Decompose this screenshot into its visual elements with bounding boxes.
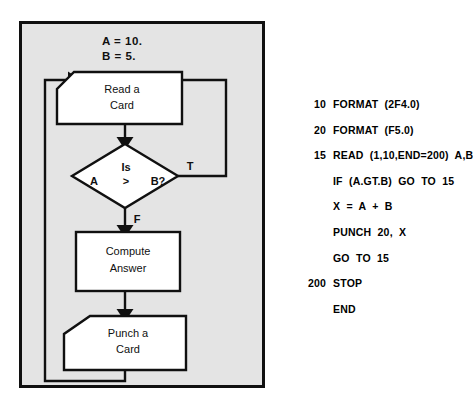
code-line-statement: FORMAT (F5.0) — [326, 124, 414, 136]
init-line-a: A = 10. — [102, 35, 142, 47]
node-read-a-card-line2: Card — [110, 99, 134, 111]
node-compute-answer-line2: Answer — [110, 262, 147, 274]
code-line: END — [300, 303, 464, 329]
node-decision-left-operand: A — [90, 175, 98, 187]
branch-label-true: T — [187, 160, 194, 172]
code-line-label: 20 — [300, 124, 326, 136]
code-line-statement: PUNCH 20, X — [326, 226, 406, 238]
code-line: IF (A.GT.B) GO TO 15 — [300, 175, 464, 201]
code-line: X = A + B — [300, 200, 464, 226]
code-line-statement: GO TO 15 — [326, 252, 389, 264]
code-line-statement: READ (1,10,END=200) A,B — [326, 149, 473, 161]
code-line-label: 10 — [300, 98, 326, 110]
node-decision-right-operand: B? — [151, 175, 166, 187]
node-compute-answer-line1: Compute — [106, 245, 151, 257]
code-line-statement: END — [326, 303, 356, 315]
fortran-code-listing: 10 FORMAT (2F4.0) 20 FORMAT (F5.0) 15 RE… — [300, 98, 464, 328]
code-line-statement: STOP — [326, 277, 362, 289]
code-line: 15 READ (1,10,END=200) A,B — [300, 149, 464, 175]
code-line: 200 STOP — [300, 277, 464, 303]
node-read-a-card-line1: Read a — [104, 83, 140, 95]
flowchart-diagram: A = 10. B = 5. Read a Card Is A > B? T F… — [22, 24, 262, 385]
node-decision-operator: > — [123, 175, 129, 187]
code-line: GO TO 15 — [300, 252, 464, 278]
node-decision-top: Is — [121, 161, 130, 173]
code-line: PUNCH 20, X — [300, 226, 464, 252]
flowchart-panel: A = 10. B = 5. Read a Card Is A > B? T F… — [19, 21, 265, 388]
node-punch-a-card-line2: Card — [116, 343, 140, 355]
code-line-statement: IF (A.GT.B) GO TO 15 — [326, 175, 454, 187]
init-line-b: B = 5. — [102, 50, 136, 62]
node-punch-a-card-line1: Punch a — [108, 327, 149, 339]
code-line-statement: FORMAT (2F4.0) — [326, 98, 420, 110]
code-line-label: 200 — [300, 277, 326, 289]
code-line: 10 FORMAT (2F4.0) — [300, 98, 464, 124]
code-line-label: 15 — [300, 149, 326, 161]
code-line-statement: X = A + B — [326, 200, 393, 212]
branch-label-false: F — [134, 213, 141, 225]
code-line: 20 FORMAT (F5.0) — [300, 124, 464, 150]
